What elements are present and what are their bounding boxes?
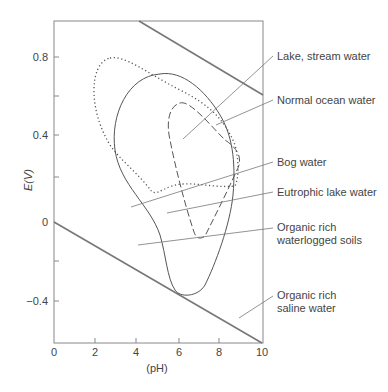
x-tick-6: 6 [176,346,182,358]
label-soils-line1: Organic rich [277,221,336,233]
label-saline-line1: Organic rich [277,289,336,301]
label-saline-line2: saline water [277,302,336,314]
y-tick-0.4: 0.4 [33,129,48,141]
label-soils-line2: waterlogged soils [276,234,362,246]
y-axis-ticks [54,57,59,301]
x-tick-10: 10 [256,346,268,358]
y-axis-label: E(V) [22,169,34,191]
x-axis-label: (pH) [146,362,167,374]
x-axis-ticks [95,338,219,343]
eh-ph-diagram: 0.8 0.4 0 −0.4 0 2 4 6 8 10 (pH) E(V) La… [0,0,388,392]
y-tick-0: 0 [42,216,48,228]
x-tick-2: 2 [92,346,98,358]
label-bog: Bog water [277,156,327,168]
x-tick-4: 4 [133,346,139,358]
upper-stability-line [139,21,263,95]
lower-stability-line [54,222,262,343]
x-tick-0: 0 [51,346,57,358]
label-ocean: Normal ocean water [277,94,376,106]
x-tick-8: 8 [216,346,222,358]
label-eutrophic: Eutrophic lake water [277,186,377,198]
plot-frame [54,21,263,343]
y-tick-0.8: 0.8 [33,51,48,63]
y-tick-neg0.4: −0.4 [26,295,48,307]
label-lake-stream: Lake, stream water [277,50,371,62]
